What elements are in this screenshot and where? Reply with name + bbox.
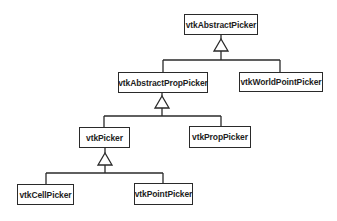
class-name: vtkAbstractPropPicker: [118, 78, 208, 88]
class-name: vtkCellPicker: [19, 190, 71, 200]
class-box-vtk-world-point-picker: vtkWorldPointPicker: [239, 72, 323, 92]
class-name: vtkPointPicker: [135, 189, 193, 199]
class-name: vtkPicker: [86, 133, 123, 143]
class-box-vtk-point-picker: vtkPointPicker: [134, 183, 193, 205]
inheritance-triangle-icon: [214, 39, 228, 51]
inheritance-triangle-icon: [155, 96, 169, 108]
class-name: vtkAbstractPicker: [186, 20, 257, 30]
class-name: vtkPropPicker: [192, 132, 248, 142]
class-box-vtk-cell-picker: vtkCellPicker: [17, 184, 74, 205]
class-box-vtk-abstract-prop-picker: vtkAbstractPropPicker: [118, 72, 208, 93]
class-box-vtk-picker: vtkPicker: [79, 127, 130, 148]
class-box-vtk-prop-picker: vtkPropPicker: [189, 126, 251, 148]
class-box-vtk-abstract-picker: vtkAbstractPicker: [184, 14, 258, 35]
inheritance-triangle-icon: [98, 153, 112, 165]
class-name: vtkWorldPointPicker: [240, 77, 321, 87]
